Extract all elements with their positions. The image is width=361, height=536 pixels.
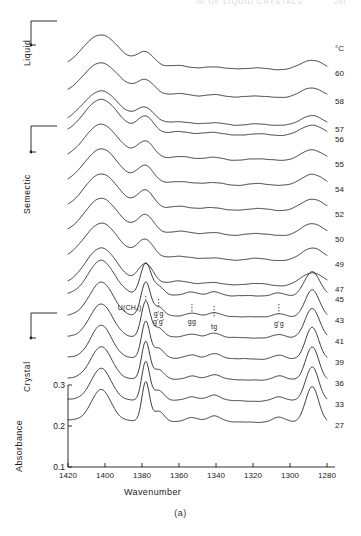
x-axis-tick-label: 1400	[96, 471, 114, 480]
conformer-label-g-prime-g-prime: g'g'	[153, 318, 164, 325]
phase-bracket-liquid	[30, 21, 57, 46]
conformer-label-gg: gg	[188, 318, 196, 325]
temperature-label: 45	[335, 295, 344, 304]
phase-bracket-label-liquid: Liquid	[22, 40, 32, 66]
spectrum-trace	[68, 260, 327, 296]
spectrum-trace	[68, 99, 327, 135]
spectrum-trace	[68, 248, 327, 286]
temperature-label: 56	[335, 135, 344, 144]
spectrum-trace	[68, 149, 327, 186]
temperature-label: 57	[335, 125, 344, 134]
conformer-label-tg: tg	[211, 323, 217, 330]
temperature-label: 55	[335, 160, 344, 169]
phase-bracket-label-crystal: Crystal	[22, 361, 32, 392]
figure-caption: (a)	[0, 508, 361, 518]
phase-bracket-crystal	[30, 313, 57, 339]
spectrum-trace	[68, 382, 327, 423]
y-axis-tick-label: 0.1	[44, 462, 65, 472]
x-axis-tick-label: 1420	[59, 471, 77, 480]
y-axis-tick-label: 0.3	[44, 380, 65, 390]
temperature-label: 54	[335, 185, 344, 194]
temperature-label: 41	[335, 337, 344, 346]
x-axis-tick-label: 1320	[244, 471, 262, 480]
conformer-label-g-prime-g-2: g'g	[274, 320, 284, 327]
phase-bracket-label-smectic: Semectic	[22, 174, 32, 214]
x-axis-title: Wavenumber	[124, 487, 181, 497]
y-axis-title: Absorbance	[14, 420, 24, 472]
spectra-plot	[0, 0, 361, 536]
spectrum-trace	[68, 301, 327, 338]
ir-spectra-figure: IR OF LIQUID CRYSTALS 241 Liquid Semecti…	[0, 0, 361, 536]
temperature-label: 52	[335, 210, 344, 219]
temperature-label: 39	[335, 358, 344, 367]
x-axis-tick-label: 1280	[318, 471, 336, 480]
conformer-label-u-ch3: U(CH₃)	[118, 304, 142, 311]
x-axis-tick-label: 1360	[170, 471, 188, 480]
spectrum-trace	[68, 174, 327, 211]
spectrum-trace	[68, 124, 327, 160]
y-axis-tick-label: 0.2	[44, 421, 65, 431]
spectrum-trace	[68, 223, 327, 260]
spectrum-trace	[68, 198, 327, 235]
x-axis-tick-label: 1300	[281, 471, 299, 480]
spectrum-trace	[68, 361, 327, 401]
temperature-label: 50	[335, 235, 344, 244]
temperature-label: 43	[335, 316, 344, 325]
x-axis-tick-label: 1380	[133, 471, 151, 480]
spectrum-trace	[68, 282, 327, 317]
temperature-label: 33	[335, 400, 344, 409]
conformer-label-g-prime-g: g'g	[154, 310, 164, 317]
temperature-label: 36	[335, 379, 344, 388]
temperature-label: 60	[335, 69, 344, 78]
x-axis-tick-label: 1340	[207, 471, 225, 480]
temperature-label: 27	[335, 421, 344, 430]
temperature-label: 49	[335, 260, 344, 269]
spectrum-trace	[68, 341, 327, 380]
temperature-label: 58	[335, 97, 344, 106]
spectrum-trace	[68, 321, 327, 359]
phase-bracket-smectic	[30, 126, 57, 153]
temperature-label: 47	[335, 285, 344, 294]
temperature-unit-label: °C	[335, 44, 344, 53]
